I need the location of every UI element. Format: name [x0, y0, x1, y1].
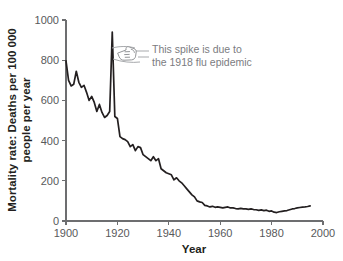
x-tick-label-2000: 2000	[311, 227, 335, 239]
y-tick-label-600: 600	[41, 94, 59, 106]
x-tick-label-1980: 1980	[259, 227, 283, 239]
x-axis-title: Year	[182, 243, 207, 255]
x-axis-ticks	[66, 221, 323, 225]
mortality-rate-line-chart: 0 200 400 600 800 1000 1900 1920 1940 19…	[0, 0, 343, 261]
y-tick-label-0: 0	[53, 215, 59, 227]
y-tick-label-400: 400	[41, 135, 59, 147]
y-tick-label-200: 200	[41, 175, 59, 187]
pointing-hand-icon	[118, 47, 136, 61]
x-tick-label-1960: 1960	[208, 227, 232, 239]
y-axis-tick-labels: 0 200 400 600 800 1000	[35, 14, 59, 227]
x-tick-label-1940: 1940	[157, 227, 181, 239]
y-tick-label-800: 800	[41, 54, 59, 66]
chart-figure: 0 200 400 600 800 1000 1900 1920 1940 19…	[0, 0, 343, 261]
x-axis-tick-labels: 1900 1920 1940 1960 1980 2000	[54, 227, 335, 239]
x-tick-label-1900: 1900	[54, 227, 78, 239]
y-axis-title-line2: people per year	[20, 77, 32, 163]
annotation-text-line1: This spike is due to	[152, 43, 242, 55]
x-tick-label-1920: 1920	[105, 227, 129, 239]
y-tick-label-1000: 1000	[35, 14, 59, 26]
y-axis-title-line1: Mortality rate: Deaths per 100 000	[6, 28, 18, 211]
annotation-text-line2: the 1918 flu epidemic	[152, 56, 252, 68]
y-axis-ticks	[62, 20, 66, 221]
